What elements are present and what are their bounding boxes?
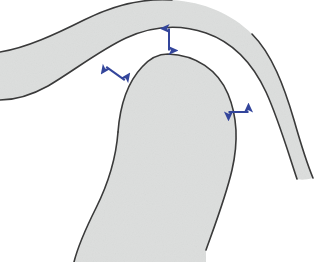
central-dome-shape — [74, 54, 236, 262]
caption-fragment — [0, 251, 314, 262]
central-dome-region — [74, 54, 236, 262]
figure-container — [0, 0, 314, 262]
arrow-left-gap — [106, 67, 125, 80]
anatomical-diagram — [0, 0, 314, 262]
